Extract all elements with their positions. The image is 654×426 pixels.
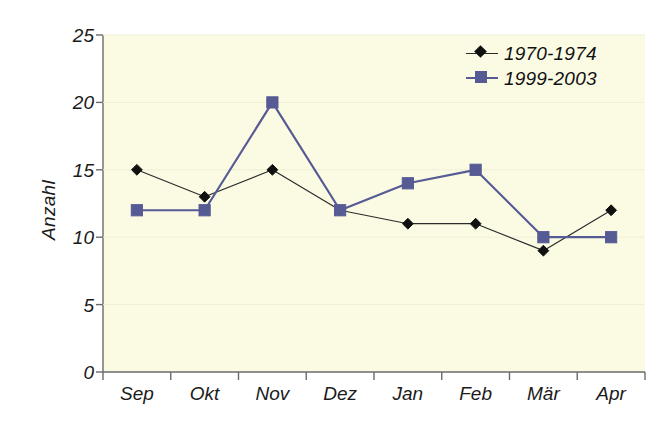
data-point-marker: [199, 205, 210, 216]
data-point-marker: [606, 232, 617, 243]
data-point-marker: [402, 178, 413, 189]
data-point-marker: [335, 205, 346, 216]
x-tick-label: Feb: [442, 382, 510, 412]
x-tick-label: Jan: [374, 382, 442, 412]
x-tick-label: Sep: [103, 382, 171, 412]
x-axis-tick-labels: Sep Okt Nov Dez Jan Feb Mär Apr: [103, 382, 645, 412]
legend-marker-1970-1974: [462, 41, 504, 66]
data-point-marker: [470, 164, 481, 175]
chart-legend: 1970-1974 1999-2003: [462, 41, 642, 91]
line-chart: Anzahl 25 20 15 10 5 0 Sep Okt Nov Dez J…: [0, 0, 654, 426]
legend-marker-1999-2003: [462, 66, 504, 91]
legend-label: 1999-2003: [504, 66, 597, 91]
x-tick-label: Mär: [510, 382, 578, 412]
legend-label: 1970-1974: [504, 41, 597, 66]
legend-item: 1970-1974: [462, 41, 642, 66]
x-tick-label: Nov: [239, 382, 307, 412]
x-tick-label: Apr: [577, 382, 645, 412]
data-point-marker: [131, 205, 142, 216]
data-point-marker: [267, 97, 278, 108]
diamond-marker-icon: [474, 45, 487, 58]
legend-item: 1999-2003: [462, 66, 642, 91]
x-tick-label: Okt: [171, 382, 239, 412]
data-point-marker: [538, 232, 549, 243]
x-tick-label: Dez: [306, 382, 374, 412]
square-marker-icon: [475, 71, 487, 83]
